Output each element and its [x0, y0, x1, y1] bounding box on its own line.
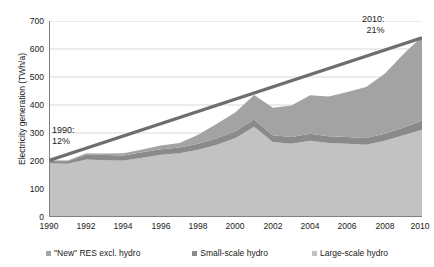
chart-legend: "New" RES excl. hydro Small-scale hydro …	[0, 245, 434, 261]
stacked-areas	[49, 36, 422, 217]
x-tick-label: 1992	[71, 222, 101, 231]
y-tick-label: 500	[18, 73, 44, 81]
legend-label: Large-scale hydro	[320, 248, 388, 258]
x-tick-label: 1994	[108, 222, 138, 231]
legend-label: Small-scale hydro	[200, 248, 268, 258]
x-tick-label: 2000	[220, 222, 250, 231]
annotation-start-line1: 1990:	[52, 125, 75, 136]
x-tick-label: 2004	[295, 222, 325, 231]
y-tick-label: 300	[18, 129, 44, 137]
annotation-start-share: 1990: 12%	[52, 125, 75, 146]
x-tick-label: 1990	[34, 222, 64, 231]
legend-swatch-icon	[46, 251, 51, 256]
x-tick-label: 1996	[146, 222, 176, 231]
legend-item-new-res: "New" RES excl. hydro	[46, 248, 140, 258]
annotation-start-line2: 12%	[52, 136, 75, 147]
y-tick-label: 600	[18, 45, 44, 53]
annotation-end-line1: 2010:	[362, 14, 385, 25]
annotation-end-line2: 21%	[362, 25, 385, 36]
legend-label: "New" RES excl. hydro	[54, 248, 140, 258]
annotation-end-share: 2010: 21%	[362, 14, 385, 35]
x-tick-label: 1998	[183, 222, 213, 231]
y-tick-label: 0	[18, 213, 44, 221]
plot-area	[49, 21, 422, 217]
chart-container: Electricity generation (TWh/a) 700 600 5…	[0, 0, 434, 267]
y-tick-label: 100	[18, 185, 44, 193]
y-tick-label: 400	[18, 101, 44, 109]
chart-svg	[49, 21, 422, 217]
y-tick-label: 700	[18, 17, 44, 25]
legend-item-small-hydro: Small-scale hydro	[192, 248, 268, 258]
x-tick-label: 2006	[332, 222, 362, 231]
x-tick-label: 2010	[405, 222, 434, 231]
legend-item-large-hydro: Large-scale hydro	[312, 248, 388, 258]
legend-swatch-icon	[192, 251, 197, 256]
y-tick-label: 200	[18, 157, 44, 165]
x-tick-label: 2008	[370, 222, 400, 231]
legend-swatch-icon	[312, 251, 317, 256]
x-tick-label: 2002	[258, 222, 288, 231]
x-axis-tick-labels: 1990 1992 1994 1996 1998 2000 2002 2004 …	[0, 222, 434, 236]
